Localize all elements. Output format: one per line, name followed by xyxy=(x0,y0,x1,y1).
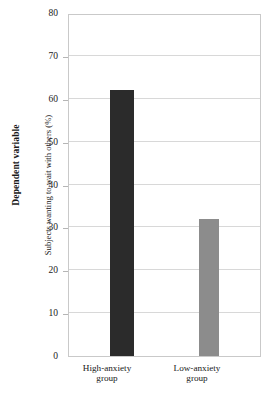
y-axis-tick-label: 50 xyxy=(32,138,58,148)
y-axis-tick-label: 20 xyxy=(32,267,58,277)
gridline xyxy=(69,98,260,99)
y-axis-tick-label: 10 xyxy=(32,309,58,319)
gridline xyxy=(69,55,260,56)
y-axis-tick-label: 30 xyxy=(32,224,58,234)
gridline xyxy=(69,141,260,142)
x-axis-category-label-line: High-anxiety xyxy=(61,363,153,373)
bar-chart-figure: Dependent variable Subjects wanting to w… xyxy=(0,0,266,394)
y-axis-tick-label: 80 xyxy=(32,9,58,19)
x-axis-category-label-line: group xyxy=(61,373,153,383)
x-axis-category-label-line: group xyxy=(151,373,243,383)
plot-area xyxy=(68,14,261,357)
bar xyxy=(110,90,134,356)
x-axis-category-label-line: Low-anxiety xyxy=(151,363,243,373)
y-axis-tick-label: 0 xyxy=(32,352,58,362)
x-axis-category-label: Low-anxietygroup xyxy=(151,363,243,384)
gridline xyxy=(69,184,260,185)
y-axis-tick-label: 60 xyxy=(32,95,58,105)
gridline xyxy=(69,269,260,270)
y-axis-tick-label: 40 xyxy=(32,181,58,191)
bar xyxy=(199,219,219,356)
y-axis-tick-label: 70 xyxy=(32,52,58,62)
gridline xyxy=(69,226,260,227)
x-axis-category-label: High-anxietygroup xyxy=(61,363,153,384)
gridline xyxy=(69,312,260,313)
